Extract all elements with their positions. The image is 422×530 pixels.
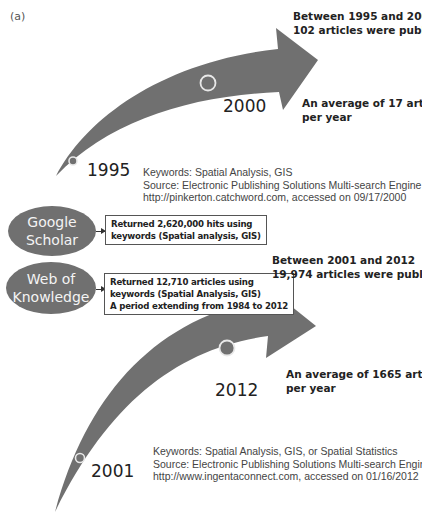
start-marker-1995 (69, 157, 77, 165)
web-of-knowledge-result-line-1: Returned 12,710 articles using (110, 276, 288, 288)
web-of-knowledge-name-line-2: Knowledge (13, 288, 90, 306)
year-label-2000: 2000 (223, 96, 266, 116)
database-google-scholar: Google Scholar (8, 206, 96, 256)
google-scholar-result-line-2: keywords (Spatial analysis, GIS) (111, 230, 261, 242)
period-2-average: An average of 1665 articles per year (286, 367, 422, 395)
year-label-2001: 2001 (91, 461, 134, 481)
year-label-1995: 1995 (87, 160, 130, 180)
period-2-average-line-2: per year (286, 381, 422, 395)
period-1-summary: Between 1995 and 2000 102 articles were … (293, 9, 422, 37)
period-2-average-line-1: An average of 1665 articles (286, 367, 422, 381)
google-scholar-connector-arrow (96, 231, 105, 232)
period-2-source-url: http://www.ingentaconnect.com, accessed … (153, 470, 422, 483)
period-1-average: An average of 17 articles per year (302, 96, 422, 124)
web-of-knowledge-name-line-1: Web of (27, 270, 75, 288)
period-1-summary-line-2: 102 articles were published (293, 23, 422, 37)
period-2-source-engine: Source: Electronic Publishing Solutions … (153, 458, 422, 471)
google-scholar-result-box: Returned 2,620,000 hits using keywords (… (105, 215, 267, 245)
database-web-of-knowledge: Web of Knowledge (6, 262, 96, 314)
google-scholar-name-line-1: Google (27, 213, 76, 231)
google-scholar-name-line-2: Scholar (26, 231, 78, 249)
period-1-source-engine: Source: Electronic Publishing Solutions … (143, 179, 421, 192)
period-1-keywords: Keywords: Spatial Analysis, GIS (143, 166, 421, 179)
google-scholar-result-line-1: Returned 2,620,000 hits using (111, 218, 261, 230)
period-2-summary: Between 2001 and 2012 19,974 articles we… (272, 253, 422, 281)
web-of-knowledge-result-line-3: A period extending from 1984 to 2012 (110, 300, 288, 312)
period-1-source-url: http://pinkerton.catchword.com, accessed… (143, 191, 421, 204)
period-1-summary-line-1: Between 1995 and 2000 (293, 9, 422, 23)
period-1-average-line-1: An average of 17 articles (302, 96, 422, 110)
period-2-summary-line-2: 19,974 articles were published (272, 267, 422, 281)
web-of-knowledge-result-box: Returned 12,710 articles using keywords … (104, 273, 294, 315)
year-label-2012: 2012 (215, 380, 258, 400)
period-2-source: Keywords: Spatial Analysis, GIS, or Spat… (153, 445, 422, 483)
growth-arrow-1995-2000 (56, 28, 318, 176)
start-marker-2001 (76, 454, 85, 463)
end-marker-2012 (220, 341, 235, 356)
period-1-source: Keywords: Spatial Analysis, GIS Source: … (143, 166, 421, 204)
end-marker-2000 (201, 76, 216, 91)
period-2-keywords: Keywords: Spatial Analysis, GIS, or Spat… (153, 445, 422, 458)
period-2-summary-line-1: Between 2001 and 2012 (272, 253, 422, 267)
web-of-knowledge-result-line-2: keywords (Spatial Analysis, GIS) (110, 288, 288, 300)
period-1-average-line-2: per year (302, 110, 422, 124)
